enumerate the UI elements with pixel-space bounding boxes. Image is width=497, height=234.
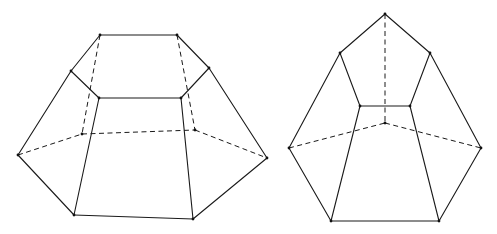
- vertex-dot: [480, 147, 483, 150]
- vertex-dot: [359, 105, 362, 108]
- visible-edge: [331, 106, 360, 221]
- vertex-dot: [438, 220, 441, 223]
- hidden-edge: [18, 134, 82, 155]
- hidden-edge: [289, 123, 385, 148]
- vertex-dot: [339, 52, 342, 55]
- vertex-dot: [180, 97, 183, 100]
- visible-edge: [289, 148, 331, 221]
- right-pentagonal-frustum: [288, 13, 483, 223]
- visible-edge: [209, 68, 267, 158]
- visible-edge: [181, 68, 209, 98]
- visible-edge: [410, 53, 430, 106]
- hidden-edge: [385, 123, 481, 148]
- hidden-edge: [82, 130, 195, 134]
- visible-edge: [410, 106, 439, 221]
- visible-edge: [177, 35, 209, 68]
- visible-edge: [18, 155, 74, 215]
- vertex-dot: [99, 34, 102, 37]
- visible-edge: [289, 53, 340, 148]
- vertex-dot: [98, 97, 101, 100]
- visible-edge: [71, 35, 100, 71]
- vertex-dot: [330, 220, 333, 223]
- vertex-dot: [17, 154, 20, 157]
- vertex-dot: [288, 147, 291, 150]
- visible-edge: [74, 98, 99, 215]
- vertex-dot: [266, 157, 269, 160]
- visible-edge: [340, 14, 385, 53]
- visible-edge: [385, 14, 430, 53]
- vertex-dot: [409, 105, 412, 108]
- vertex-dot: [176, 34, 179, 37]
- left-hexagonal-frustum: [17, 34, 269, 221]
- visible-edge: [74, 215, 193, 219]
- visible-edge: [181, 98, 193, 219]
- hidden-edge: [177, 35, 195, 130]
- visible-edge: [340, 53, 360, 106]
- visible-edge: [193, 158, 267, 219]
- visible-edge: [18, 71, 71, 155]
- visible-edge: [430, 53, 481, 148]
- vertex-dot: [208, 67, 211, 70]
- vertex-dot: [73, 214, 76, 217]
- visible-edge: [71, 71, 99, 98]
- vertex-dot: [192, 218, 195, 221]
- vertex-dot: [70, 70, 73, 73]
- vertex-dot: [81, 133, 84, 136]
- frustum-diagram: [0, 0, 497, 234]
- vertex-dot: [384, 13, 387, 16]
- visible-edge: [439, 148, 481, 221]
- vertex-dot: [194, 129, 197, 132]
- vertex-dot: [429, 52, 432, 55]
- vertex-dot: [384, 122, 387, 125]
- hidden-edge: [195, 130, 267, 158]
